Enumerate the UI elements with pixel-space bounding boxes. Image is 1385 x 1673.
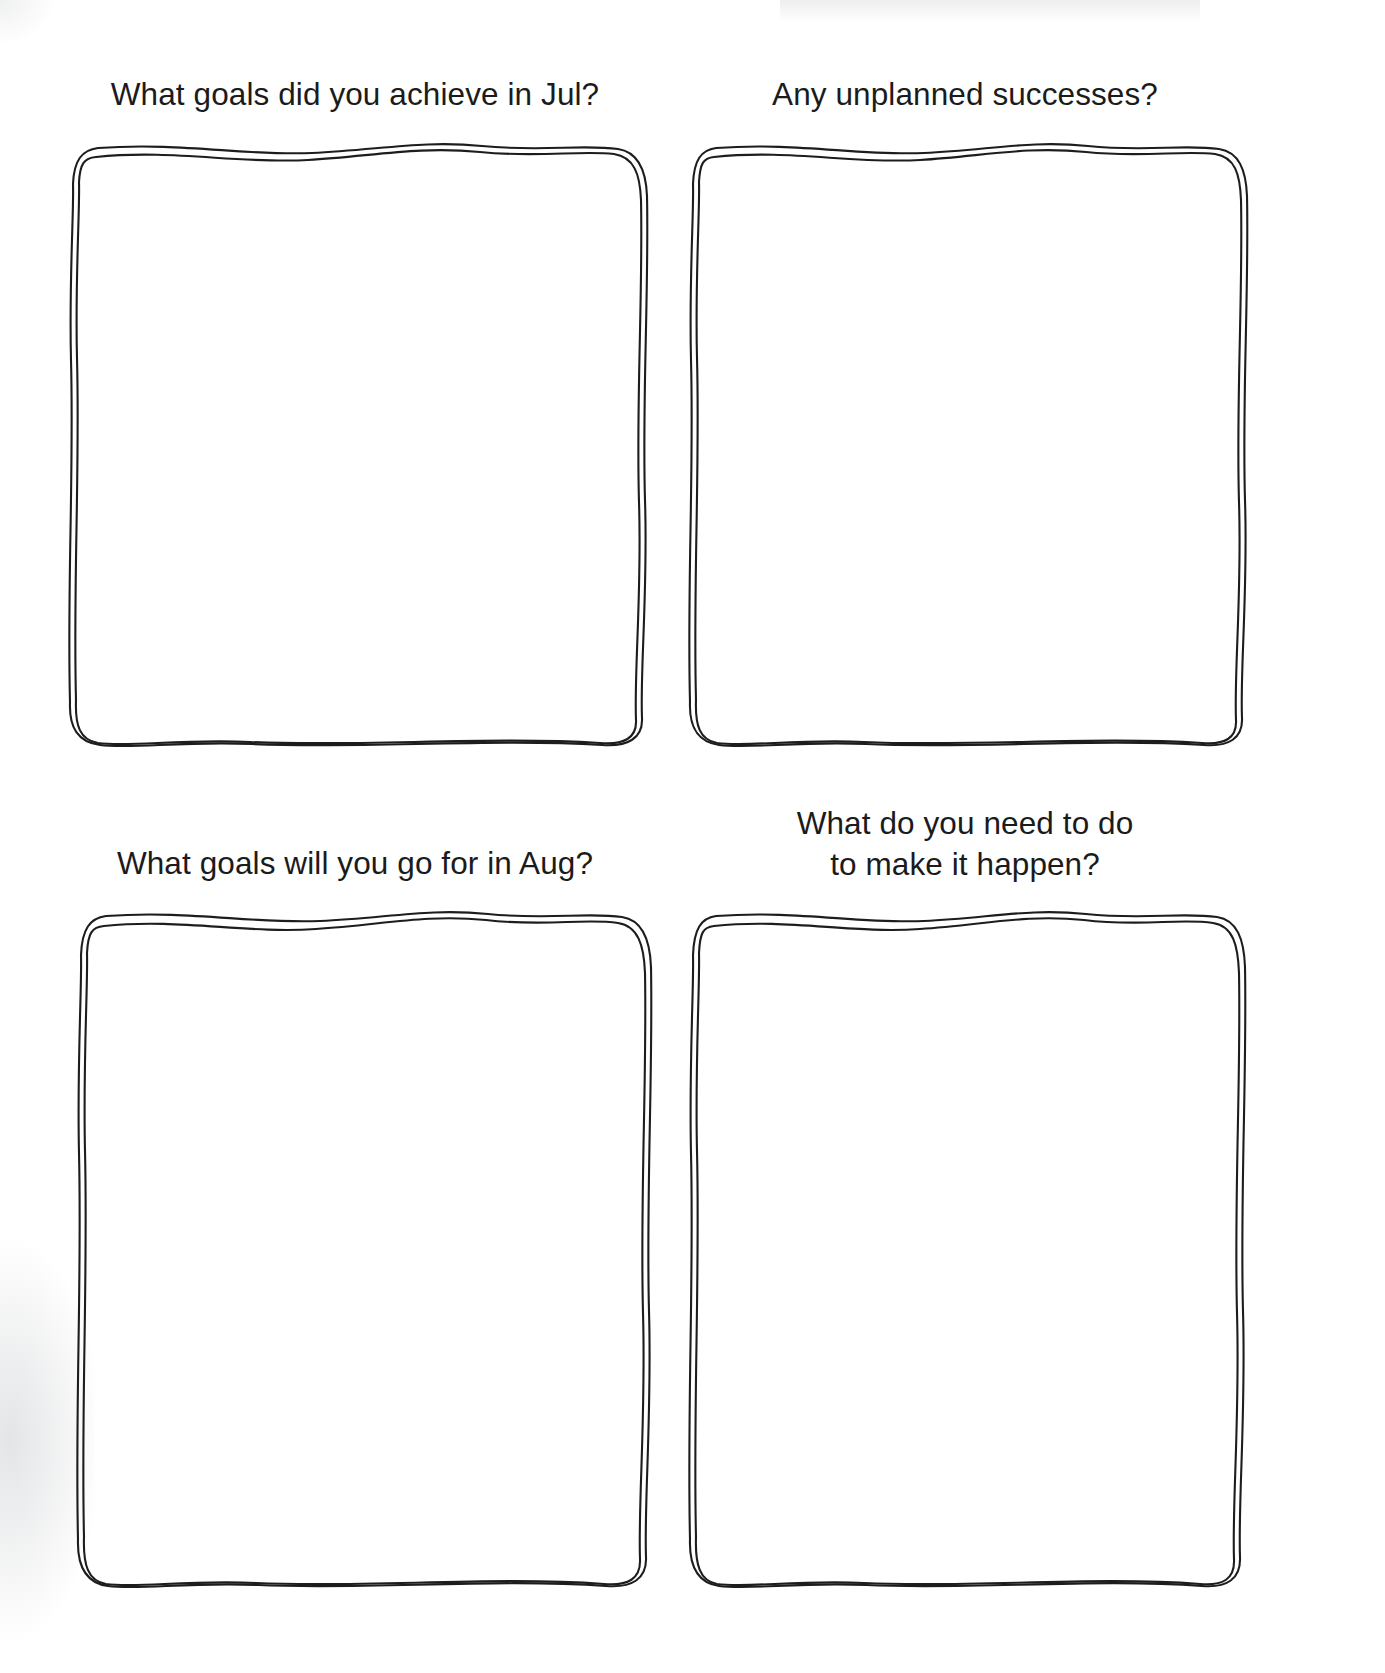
scan-shadow-top-left (0, 0, 70, 60)
quadrant-4-answer-box[interactable] (682, 907, 1250, 1597)
quadrant-3-label: What goals will you go for in Aug? (40, 843, 670, 884)
scan-shadow-top-middle (780, 0, 1200, 22)
quadrant-2-answer-box[interactable] (682, 140, 1252, 755)
hand-drawn-rectangle-icon (62, 140, 652, 755)
hand-drawn-rectangle-icon (70, 907, 655, 1597)
quadrant-3-answer-box[interactable] (70, 907, 655, 1597)
worksheet-page: What goals did you achieve in Jul? Any u… (0, 0, 1385, 1673)
quadrant-1-answer-box[interactable] (62, 140, 652, 755)
hand-drawn-rectangle-icon (682, 907, 1250, 1597)
quadrant-2-label: Any unplanned successes? (680, 74, 1250, 115)
quadrant-4-label: What do you need to do to make it happen… (680, 803, 1250, 885)
quadrant-1-label: What goals did you achieve in Jul? (40, 74, 670, 115)
hand-drawn-rectangle-icon (682, 140, 1252, 755)
